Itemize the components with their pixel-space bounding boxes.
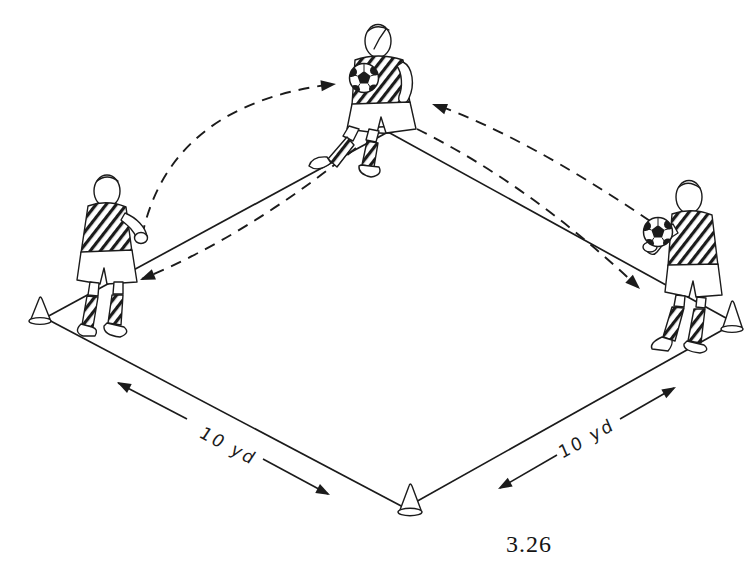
- player-top-shoe-left: [309, 157, 331, 169]
- player-left-shorts: [77, 250, 137, 284]
- player-left-sock-left: [82, 296, 98, 327]
- player-left-knee-left: [88, 282, 99, 296]
- player-right: [640, 181, 722, 354]
- player-left-shirt: [81, 203, 132, 256]
- return-arrow-top-to-left: [138, 148, 356, 285]
- grid-square-outline: [45, 132, 735, 508]
- drill-figure: 10 yd 10 yd 3.26: [0, 0, 756, 572]
- pass-arrow-right-to-top: [430, 99, 650, 221]
- player-left-sock-right: [108, 295, 123, 325]
- arrowhead: [115, 378, 132, 393]
- player-right-knee-left: [674, 295, 685, 307]
- player-top-shoe-right: [359, 165, 380, 177]
- player-right-sock-left: [663, 307, 684, 341]
- grid-edge-bottom-left: [45, 318, 405, 508]
- arrowhead: [138, 269, 156, 285]
- player-left-shoe-right: [104, 323, 127, 337]
- dimension-left: 10 yd: [115, 378, 333, 500]
- player-right-shorts: [665, 264, 722, 297]
- player-right-sock-right: [688, 309, 705, 343]
- player-left-knee-right: [113, 282, 123, 294]
- player-right-shoe-right: [684, 341, 707, 353]
- arrowhead: [430, 99, 448, 114]
- player-right-shirt: [668, 211, 718, 269]
- player-left: [77, 175, 148, 337]
- figure-caption: 3.26: [506, 531, 552, 557]
- player-right-knee-right: [696, 297, 706, 308]
- dimension-right: 10 yd: [496, 383, 679, 494]
- dimension-left-label: 10 yd: [195, 423, 261, 468]
- drill-diagram: 10 yd 10 yd 3.26: [0, 0, 756, 572]
- arrowhead: [625, 275, 643, 293]
- arrowhead: [315, 484, 332, 499]
- player-top-center: [309, 25, 416, 178]
- arrowhead: [496, 478, 513, 494]
- arrowhead: [661, 383, 678, 399]
- player-left-hand: [135, 233, 148, 244]
- arrowhead: [320, 79, 336, 92]
- grid-edge-bottom-right: [405, 323, 735, 508]
- traffic-cone-left: [29, 297, 51, 324]
- player-right-shoe-left: [651, 337, 672, 351]
- player-top-knee-right: [366, 129, 379, 142]
- dimension-right-label: 10 yd: [556, 414, 618, 463]
